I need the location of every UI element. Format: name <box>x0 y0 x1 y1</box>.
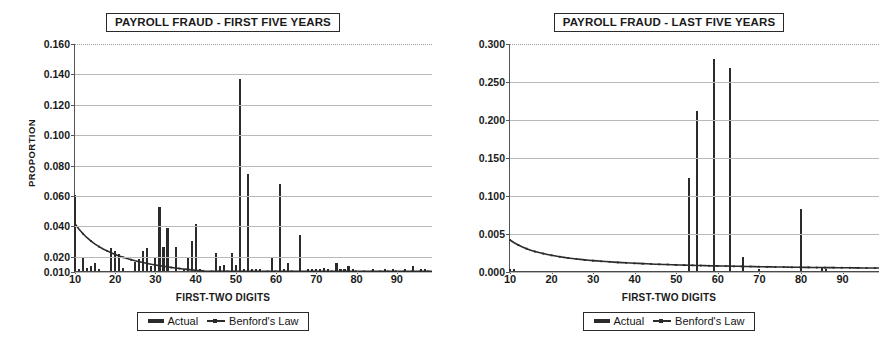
gridline <box>75 226 432 227</box>
benford-marker <box>658 263 660 265</box>
gridline <box>510 82 879 83</box>
benford-marker <box>517 244 519 246</box>
benford-marker <box>642 263 644 265</box>
legend-1: Actual Benford's Law <box>583 312 756 331</box>
legend-wrap-0: Actual Benford's Law <box>0 312 446 331</box>
chart-panel-last-five-years: PAYROLL FRAUD - LAST FIVE YEARS 10203040… <box>446 0 892 348</box>
benford-marker <box>741 265 743 267</box>
benford-curve-path <box>75 224 432 272</box>
y-tick-label: 0.100 <box>44 129 75 141</box>
benford-marker <box>154 264 156 266</box>
benford-marker <box>609 261 611 263</box>
benford-marker <box>667 264 669 266</box>
figure-container: PAYROLL FRAUD - FIRST FIVE YEARS PROPORT… <box>0 0 892 348</box>
benford-marker <box>650 263 652 265</box>
benford-marker <box>683 264 685 266</box>
gridline <box>75 272 432 273</box>
x-tick-label: 40 <box>629 273 641 285</box>
legend-item-benford-0: Benford's Law <box>207 315 298 327</box>
benford-marker <box>824 267 826 269</box>
legend-item-benford-1: Benford's Law <box>653 315 744 327</box>
benford-marker <box>808 266 810 268</box>
benford-marker <box>130 259 132 261</box>
y-tick-label: 0.200 <box>479 114 510 126</box>
legend-label-actual-1: Actual <box>614 315 645 327</box>
benford-marker <box>832 267 834 269</box>
benford-marker <box>675 264 677 266</box>
y-tick-label: 0.040 <box>44 220 75 232</box>
gridline <box>75 166 432 167</box>
x-tick-label: 70 <box>753 273 765 285</box>
y-tick-label: 0.160 <box>44 38 75 50</box>
chart-title-wrap-1: PAYROLL FRAUD - LAST FIVE YEARS <box>446 13 892 32</box>
y-tick-label: 0.000 <box>479 266 510 278</box>
legend-0: Actual Benford's Law <box>137 312 310 331</box>
x-tick-label: 20 <box>545 273 557 285</box>
line-swatch-icon <box>594 319 610 322</box>
benford-marker <box>567 257 569 259</box>
legend-wrap-1: Actual Benford's Law <box>446 312 892 331</box>
y-tick-label: 0.020 <box>44 251 75 263</box>
x-tick-label: 70 <box>310 273 322 285</box>
x-tick-label: 60 <box>712 273 724 285</box>
benford-curve-path <box>510 240 879 268</box>
benford-marker <box>791 266 793 268</box>
benford-marker <box>534 251 536 253</box>
x-tick-label: 50 <box>230 273 242 285</box>
y-tick-label: 0.005 <box>479 228 510 240</box>
benford-marker <box>90 240 92 242</box>
benford-marker <box>725 265 727 267</box>
legend-label-benford-0: Benford's Law <box>229 315 298 327</box>
benford-marker <box>138 261 140 263</box>
benford-marker <box>799 266 801 268</box>
plot-area-0: 102030405060708090 0.0100.0200.0400.0600… <box>74 44 432 272</box>
line-marker-swatch-icon <box>207 319 225 323</box>
benford-marker <box>849 267 851 269</box>
plot-area-1: 102030405060708090 0.0000.0050.1000.1500… <box>509 44 879 272</box>
gridline <box>510 158 879 159</box>
x-tick-label: 80 <box>350 273 362 285</box>
benford-marker <box>584 259 586 261</box>
legend-item-actual-0: Actual <box>148 315 199 327</box>
x-tick-label: 30 <box>587 273 599 285</box>
benford-law-line-0 <box>75 44 432 271</box>
gridline <box>75 196 432 197</box>
chart-title-0: PAYROLL FRAUD - FIRST FIVE YEARS <box>106 13 340 32</box>
gridline <box>75 44 432 46</box>
legend-label-benford-1: Benford's Law <box>675 315 744 327</box>
chart-title-1: PAYROLL FRAUD - LAST FIVE YEARS <box>554 13 785 32</box>
benford-marker <box>733 265 735 267</box>
benford-marker <box>542 253 544 255</box>
benford-marker <box>750 266 752 268</box>
benford-marker <box>841 267 843 269</box>
benford-marker <box>575 258 577 260</box>
x-axis-label-0: FIRST-TWO DIGITS <box>0 292 446 303</box>
plot-area-wrap-0: 102030405060708090 0.0100.0200.0400.0600… <box>74 44 432 272</box>
chart-panel-first-five-years: PAYROLL FRAUD - FIRST FIVE YEARS PROPORT… <box>0 0 446 348</box>
gridline <box>510 234 879 235</box>
x-tick-label: 90 <box>391 273 403 285</box>
benford-marker <box>783 266 785 268</box>
benford-marker <box>178 268 180 270</box>
plot-area-wrap-1: 102030405060708090 0.0000.0050.1000.1500… <box>509 44 879 272</box>
x-tick-label: 90 <box>836 273 848 285</box>
gridline <box>75 74 432 75</box>
benford-marker <box>551 254 553 256</box>
benford-marker <box>526 248 528 250</box>
gridline <box>510 272 879 273</box>
x-tick-label: 40 <box>190 273 202 285</box>
gridline <box>75 135 432 136</box>
benford-marker <box>82 233 84 235</box>
benford-marker <box>146 263 148 265</box>
benford-marker <box>774 266 776 268</box>
line-marker-swatch-icon <box>653 319 671 323</box>
benford-marker <box>857 267 859 269</box>
benford-marker <box>106 250 108 252</box>
x-axis-ticks-1: 102030405060708090 <box>510 271 879 291</box>
y-tick-label: 0.140 <box>44 68 75 80</box>
y-tick-label: 0.250 <box>479 76 510 88</box>
benford-marker <box>559 256 561 258</box>
benford-marker <box>766 266 768 268</box>
benford-marker <box>874 267 876 269</box>
x-tick-label: 50 <box>670 273 682 285</box>
